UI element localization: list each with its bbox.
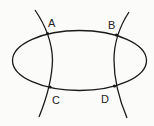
point-c xyxy=(48,85,51,88)
diagram-canvas: A B C D xyxy=(0,0,154,126)
ellipse xyxy=(13,31,147,91)
point-a xyxy=(46,32,49,35)
point-d xyxy=(113,84,116,87)
label-b: B xyxy=(108,19,115,31)
point-b xyxy=(115,33,118,36)
label-c: C xyxy=(52,94,60,106)
label-a: A xyxy=(48,17,56,29)
hyperbola-right-branch xyxy=(114,12,129,118)
conic-diagram: A B C D xyxy=(0,0,154,126)
label-d: D xyxy=(101,93,109,105)
